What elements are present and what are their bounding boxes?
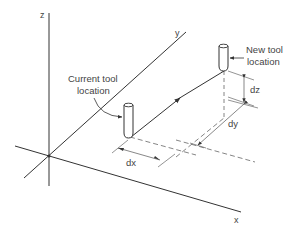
dz-label: dz [250, 84, 260, 95]
dx-extension-left [112, 140, 128, 153]
dx-extension-right [158, 154, 175, 167]
current-tool-label-line2: location [77, 85, 110, 96]
dy-label: dy [228, 118, 238, 129]
current-tool-leader [94, 98, 122, 117]
y-axis-label: y [175, 28, 180, 38]
tool-path-arrow [131, 98, 180, 137]
origin-point [48, 155, 51, 158]
dz-extension-bottom [228, 97, 254, 106]
tool-path-line [178, 71, 224, 99]
dx-label: dx [126, 157, 136, 168]
tool-move-diagram: z y x Current tool location New tool loc… [0, 0, 292, 226]
z-axis-label: z [40, 10, 45, 20]
new-tool-label-line2: location [247, 56, 280, 67]
dy-base-projection [176, 140, 255, 162]
current-tool-label-line1: Current tool [68, 73, 118, 84]
dx-projection [130, 137, 196, 155]
dy-extension-top [228, 100, 258, 108]
current-tool-icon [124, 103, 133, 138]
new-tool-icon [219, 44, 228, 71]
dy-extension-bottom [190, 143, 206, 148]
dz-extension-top [228, 71, 254, 80]
new-tool-label-line1: New tool [246, 44, 283, 55]
x-axis-label: x [234, 215, 239, 225]
dx-dimension-line [118, 148, 160, 160]
dx-arrow-left [118, 148, 124, 151]
